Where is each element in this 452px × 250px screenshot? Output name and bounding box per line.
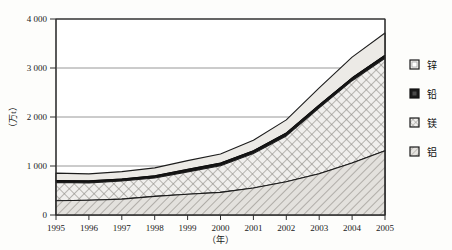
stacked-area-chart: 4 000 3 000 2 000 1 000 0 （万t） 1995 1996 — [0, 0, 452, 250]
x-tick-label: 2003 — [310, 223, 329, 233]
x-tick-label: 1996 — [80, 223, 99, 233]
legend-label-zinc: 锌 — [427, 59, 437, 71]
y-tick-label: 4 000 — [27, 14, 48, 24]
x-tick-label: 2001 — [244, 223, 262, 233]
y-tick-label: 1 000 — [27, 161, 48, 171]
x-tick-label: 2002 — [277, 223, 295, 233]
legend-swatch-lead-inner — [413, 92, 417, 96]
y-tick-label: 3 000 — [27, 63, 48, 73]
x-tick-label: 1998 — [146, 223, 165, 233]
x-tick-label: 2005 — [376, 223, 395, 233]
y-axis-title: （万t） — [8, 102, 18, 132]
y-tick-label: 0 — [43, 210, 48, 220]
legend-label-magnesium: 镁 — [427, 117, 437, 129]
legend-swatch-magnesium — [410, 118, 419, 127]
legend-swatch-zinc — [412, 62, 417, 67]
x-tick-label: 2004 — [343, 223, 362, 233]
y-tick-label: 2 000 — [27, 112, 48, 122]
x-tick-label: 1999 — [179, 223, 198, 233]
x-tick-label: 1995 — [47, 223, 66, 233]
x-axis-title: （年） — [207, 234, 234, 245]
legend-label-lead: 铅 — [427, 88, 437, 100]
chart-svg: 4 000 3 000 2 000 1 000 0 （万t） 1995 1996 — [0, 0, 452, 250]
legend-swatch-aluminum — [410, 147, 419, 156]
x-tick-label: 2000 — [212, 223, 231, 233]
legend-label-aluminum: 铝 — [427, 147, 437, 158]
x-tick-label: 1997 — [113, 223, 132, 233]
